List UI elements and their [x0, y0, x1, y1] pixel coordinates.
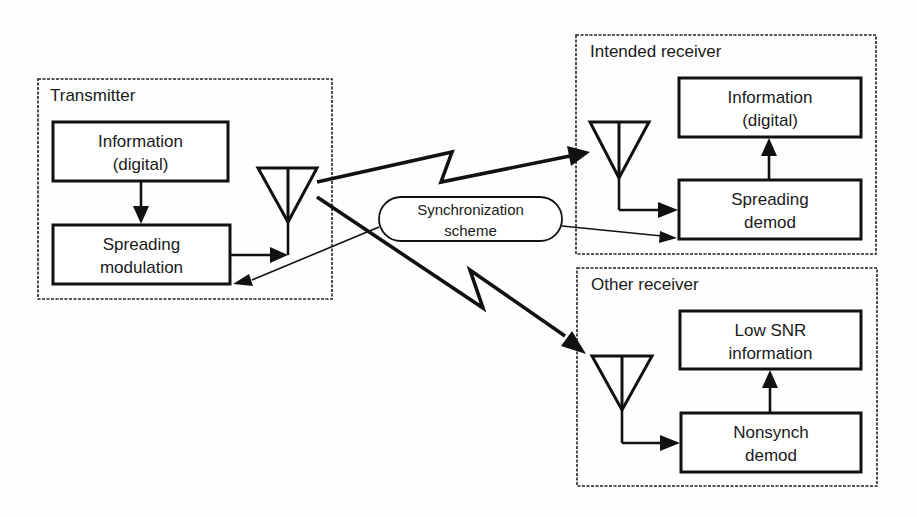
spread-spectrum-diagram: Transmitter Information (digital) Spread…: [0, 0, 917, 517]
nonsynch-demod-block: Nonsynch demod: [681, 413, 861, 472]
radio-link-to-intended: [317, 146, 590, 182]
tx-information-block: Information (digital): [53, 122, 228, 181]
antenna-icon: [258, 168, 317, 222]
low-snr-label-1: Low SNR: [735, 321, 807, 340]
rx-demod-to-info-arrow: [761, 138, 777, 180]
rx-feed-arrow: [619, 178, 678, 218]
synchronization-scheme: Synchronization scheme: [233, 197, 677, 286]
low-snr-information-block: Low SNR information: [680, 311, 861, 369]
intended-receiver-group: Intended receiver Information (digital) …: [576, 35, 876, 254]
sync-label-1: Synchronization: [417, 201, 524, 218]
low-snr-label-2: information: [728, 344, 812, 363]
intended-receiver-title: Intended receiver: [590, 42, 722, 61]
nonsynch-to-lowsnr-arrow: [762, 370, 778, 412]
transmitter-group: Transmitter Information (digital) Spread…: [38, 79, 332, 299]
tx-spreading-label-1: Spreading: [103, 235, 181, 254]
other-receiver-group: Other receiver Low SNR information Nonsy…: [577, 268, 877, 486]
tx-spreading-label-2: modulation: [100, 258, 183, 277]
sync-label-2: scheme: [444, 222, 497, 239]
nonsynch-label-2: demod: [745, 446, 797, 465]
other-feed-arrow: [622, 410, 680, 451]
nonsynch-label-1: Nonsynch: [733, 423, 809, 442]
tx-information-label-2: (digital): [113, 155, 169, 174]
antenna-icon: [590, 122, 649, 178]
rx-information-label-1: Information: [727, 88, 812, 107]
rx-spreading-label-1: Spreading: [731, 190, 809, 209]
rx-information-block: Information (digital): [679, 78, 861, 137]
tx-info-to-spreading-arrow: [133, 181, 149, 224]
transmitter-title: Transmitter: [50, 86, 136, 105]
rx-spreading-demod-block: Spreading demod: [679, 180, 861, 239]
tx-spreading-modulation-block: Spreading modulation: [53, 225, 230, 284]
antenna-icon: [592, 356, 652, 410]
tx-information-label-1: Information: [98, 132, 183, 151]
rx-information-label-2: (digital): [742, 111, 798, 130]
other-receiver-title: Other receiver: [591, 275, 699, 294]
rx-spreading-label-2: demod: [744, 213, 796, 232]
tx-feed-arrow: [230, 222, 288, 263]
